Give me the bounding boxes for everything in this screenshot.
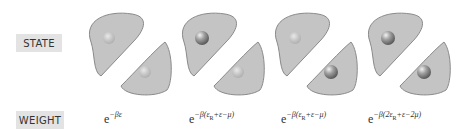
- weight-formula-1: e−βε: [104, 110, 122, 127]
- empty-site-icon: [232, 66, 244, 78]
- weight-formula-3: e−β(εR+ε−μ): [281, 110, 326, 127]
- top-cell: [182, 13, 236, 76]
- top-cell: [368, 13, 422, 76]
- empty-site-icon: [139, 66, 151, 78]
- empty-site-icon: [289, 32, 301, 44]
- particle-icon: [381, 31, 395, 45]
- weight-formula-4: e−β(2εR+ε−2μ): [368, 110, 421, 127]
- state-diagram-bottom-occupied: [263, 2, 363, 100]
- state-label: STATE: [16, 34, 62, 52]
- particle-icon: [417, 65, 431, 79]
- top-cell: [89, 13, 143, 76]
- weight-label: WEIGHT: [16, 111, 64, 129]
- state-diagram-empty-empty: [77, 2, 177, 100]
- particle-icon: [324, 65, 338, 79]
- particle-icon: [195, 31, 209, 45]
- state-diagram-top-occupied: [170, 2, 270, 100]
- top-cell: [275, 13, 329, 76]
- weight-formula-2: e−β(εR+ε−μ): [189, 110, 234, 127]
- state-diagram-both-occupied: [356, 2, 456, 100]
- empty-site-icon: [103, 32, 115, 44]
